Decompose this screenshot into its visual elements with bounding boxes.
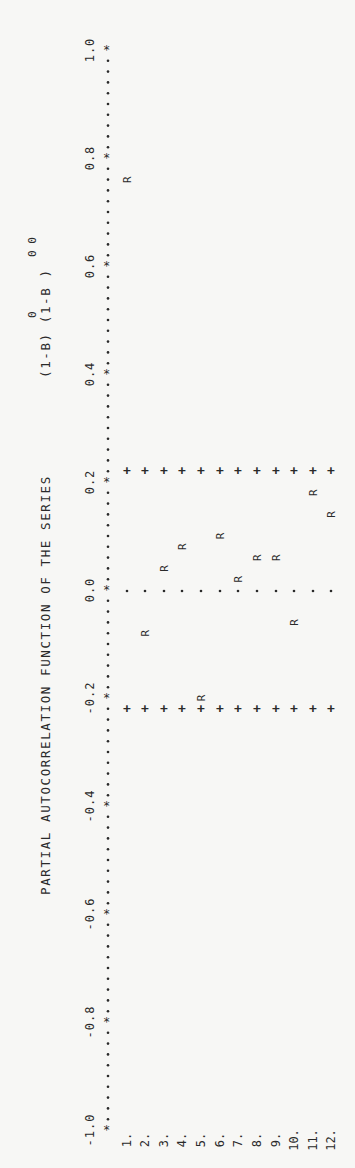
lower-bound-marker: +	[234, 701, 242, 716]
pacf-point-lag-11: R	[307, 489, 320, 496]
axis-dot	[107, 178, 110, 181]
axis-tick-star: *	[103, 367, 110, 381]
axis-dot	[107, 189, 110, 192]
lower-bound-marker: +	[197, 701, 205, 716]
lag-labels: 1.2.3.4.5.6.7.8.9.10.11.12.	[120, 1129, 338, 1151]
axis-tick-star: *	[103, 43, 110, 57]
axis-dot	[107, 654, 110, 657]
upper-bound-marker: +	[141, 463, 149, 478]
axis-dot	[107, 708, 110, 711]
axis-dot	[107, 751, 110, 754]
lower-bound-marker: +	[290, 701, 298, 716]
axis-dot	[107, 924, 110, 927]
lower-bound-marker: +	[309, 701, 317, 716]
lower-bound-marker: +	[178, 701, 186, 716]
lower-bound-marker: +	[272, 701, 280, 716]
axis-dot	[107, 1118, 110, 1121]
axis-dot	[107, 848, 110, 851]
tick-label: 1.0	[83, 38, 97, 63]
axis-dot	[107, 1032, 110, 1035]
axis-dot	[107, 1075, 110, 1078]
axis-dot	[107, 1053, 110, 1056]
tick-label: 0.6	[83, 254, 97, 279]
axis-dot	[107, 891, 110, 894]
axis-dot	[107, 945, 110, 948]
axis-dot	[107, 114, 110, 117]
axis-dot	[107, 1010, 110, 1013]
axis-dot	[107, 222, 110, 225]
axis-dot	[107, 492, 110, 495]
tick-label: 0.0	[83, 578, 97, 603]
pacf-chart: PARTIAL AUTOCORRELATION FUNCTION OF THE …	[0, 0, 355, 1168]
axis-dot	[107, 729, 110, 732]
axis-dot	[107, 816, 110, 819]
axis-dot	[107, 956, 110, 959]
axis-dot	[107, 319, 110, 322]
zero-line-dot	[275, 590, 278, 593]
axis-dot	[107, 135, 110, 138]
axis-dot	[107, 384, 110, 387]
upper-bound-marker: +	[234, 463, 242, 478]
chart-canvas: PARTIAL AUTOCORRELATION FUNCTION OF THE …	[0, 0, 355, 1168]
axis-dot	[107, 351, 110, 354]
lag-label: 5.	[194, 1133, 208, 1147]
pacf-point-lag-2: R	[139, 630, 152, 637]
upper-bound-marker: +	[309, 463, 317, 478]
upper-bound-marker: +	[272, 463, 280, 478]
axis-dot	[107, 632, 110, 635]
axis-dot	[107, 535, 110, 538]
axis-tick-star: *	[103, 799, 110, 813]
pacf-points: RRRRRRRRRRRR	[121, 176, 338, 701]
axis-tick-star: *	[103, 1015, 110, 1029]
axis-dot	[107, 103, 110, 106]
axis-dot	[107, 675, 110, 678]
axis-dot	[107, 837, 110, 840]
zero-line	[126, 590, 333, 593]
axis-dot	[107, 438, 110, 441]
tick-label: -0.2	[83, 682, 97, 715]
axis-dot	[107, 232, 110, 235]
lag-label: 9.	[269, 1133, 283, 1147]
zero-line-dot	[237, 590, 240, 593]
lower-bound-marker: +	[123, 701, 131, 716]
axis-dot	[107, 92, 110, 95]
axis-dot	[107, 211, 110, 214]
tick-label: 0.4	[83, 362, 97, 387]
axis-dot	[107, 567, 110, 570]
axis-tick-star: *	[103, 151, 110, 165]
axis-dot	[107, 470, 110, 473]
axis-dot	[107, 859, 110, 862]
axis-dot	[107, 600, 110, 603]
axis-dot	[107, 254, 110, 257]
tick-label: -0.4	[83, 790, 97, 823]
chart-title-superscript-1: 0	[26, 311, 39, 318]
upper-bound-marker: +	[327, 463, 335, 478]
zero-line-dot	[163, 590, 166, 593]
pacf-point-lag-5: R	[195, 694, 208, 701]
axis-dot	[107, 664, 110, 667]
upper-bound-marker: +	[253, 463, 261, 478]
axis-dot	[107, 243, 110, 246]
lag-label: 1.	[120, 1133, 134, 1147]
axis-dot	[107, 427, 110, 430]
chart-title: PARTIAL AUTOCORRELATION FUNCTION OF THE …	[26, 237, 53, 895]
axis-dot	[107, 772, 110, 775]
lower-bound-marker: +	[253, 701, 261, 716]
axis-dot	[107, 999, 110, 1002]
chart-title-text: PARTIAL AUTOCORRELATION FUNCTION OF THE …	[38, 475, 53, 895]
lag-label: 6.	[213, 1133, 227, 1147]
pacf-point-lag-1: R	[121, 176, 134, 183]
axis-dot	[107, 146, 110, 149]
axis-dot	[107, 621, 110, 624]
axis-dot	[107, 902, 110, 905]
pacf-point-lag-9: R	[270, 554, 283, 561]
axis-dot	[107, 276, 110, 279]
axis-dot	[107, 718, 110, 721]
zero-line-dot	[256, 590, 259, 593]
axis-dot	[107, 783, 110, 786]
axis-dot	[107, 967, 110, 970]
axis-dot	[107, 1064, 110, 1067]
axis-dot	[107, 502, 110, 505]
upper-bound-marker: +	[160, 463, 168, 478]
axis-dot	[107, 762, 110, 765]
